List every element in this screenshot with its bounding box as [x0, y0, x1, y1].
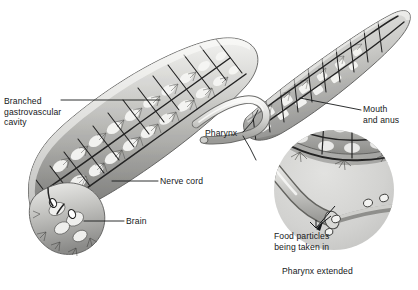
label-inset-caption: Pharynx extended: [282, 266, 353, 277]
label-mouth-and-anus: Mouth and anus: [363, 104, 399, 125]
label-nerve-cord: Nerve cord: [160, 176, 203, 187]
planarian-posterior-body: [244, 11, 411, 146]
label-brain: Brain: [126, 216, 147, 227]
head-region: [29, 183, 104, 256]
label-food-particles: Food particles being taken in: [274, 231, 329, 252]
label-branched-gastrovascular-cavity: Branched gastrovascular cavity: [4, 96, 61, 128]
figure-canvas: Branched gastrovascular cavity Nerve cor…: [0, 0, 418, 290]
label-pharynx: Pharynx: [205, 128, 237, 139]
planarian-illustration: [0, 0, 418, 290]
